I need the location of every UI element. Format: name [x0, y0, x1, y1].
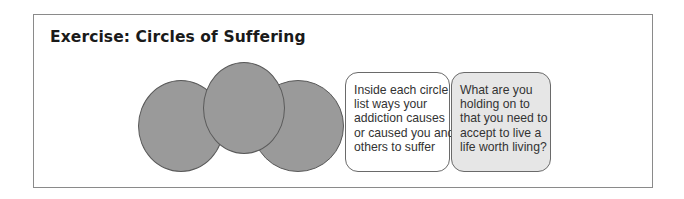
question-line: What are you	[460, 83, 550, 97]
question-box: What are you holding on to that you need…	[451, 72, 551, 172]
instruction-line: addiction causes	[354, 111, 449, 125]
exercise-title: Exercise: Circles of Suffering	[50, 28, 306, 46]
instruction-line: list ways your	[354, 97, 449, 111]
suffering-circle-middle	[203, 62, 285, 154]
question-line: that you need to	[460, 111, 550, 125]
instruction-line: Inside each circle	[354, 83, 449, 97]
instruction-line: others to suffer	[354, 140, 449, 154]
instruction-box: Inside each circle list ways your addict…	[345, 72, 450, 172]
instruction-line: or caused you and	[354, 126, 449, 140]
question-line: life worth living?	[460, 140, 550, 154]
question-line: holding on to	[460, 97, 550, 111]
question-line: accept to live a	[460, 126, 550, 140]
